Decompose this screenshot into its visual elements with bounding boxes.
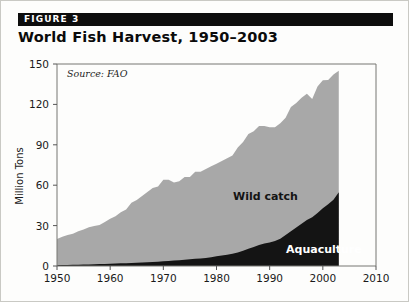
x-axis-tick-label: 1950 bbox=[44, 272, 71, 284]
x-axis-tick-label: 2010 bbox=[363, 272, 390, 284]
y-axis-tick-label: 120 bbox=[29, 98, 49, 110]
chart-svg: 0306090120150 19501960197019801990200020… bbox=[1, 1, 409, 302]
chart-series-group bbox=[57, 71, 339, 266]
series-label-wild-catch: Wild catch bbox=[233, 190, 298, 203]
y-axis-tick-label: 90 bbox=[36, 139, 49, 151]
x-axis-tick-label: 2000 bbox=[309, 272, 336, 284]
y-axis-tick-label: 60 bbox=[36, 179, 49, 191]
y-axis-ticks: 0306090120150 bbox=[29, 58, 57, 272]
y-axis-title: Million Tons bbox=[14, 147, 25, 204]
y-axis-tick-label: 150 bbox=[29, 58, 49, 70]
source-annotation: Source: FAO bbox=[67, 68, 128, 79]
x-axis-tick-label: 1990 bbox=[256, 272, 283, 284]
chart-plot-area: 0306090120150 19501960197019801990200020… bbox=[1, 1, 409, 302]
x-axis-tick-label: 1980 bbox=[203, 272, 230, 284]
series-label-aquaculture: Aquaculture bbox=[286, 243, 362, 256]
y-axis-tick-label: 0 bbox=[42, 260, 49, 272]
x-axis-tick-label: 1960 bbox=[97, 272, 124, 284]
y-axis-tick-label: 30 bbox=[36, 220, 49, 232]
x-axis-tick-label: 1970 bbox=[150, 272, 177, 284]
figure-card: FIGURE 3 World Fish Harvest, 1950–2003 0… bbox=[0, 0, 409, 302]
x-axis-ticks: 1950196019701980199020002010 bbox=[44, 266, 390, 284]
